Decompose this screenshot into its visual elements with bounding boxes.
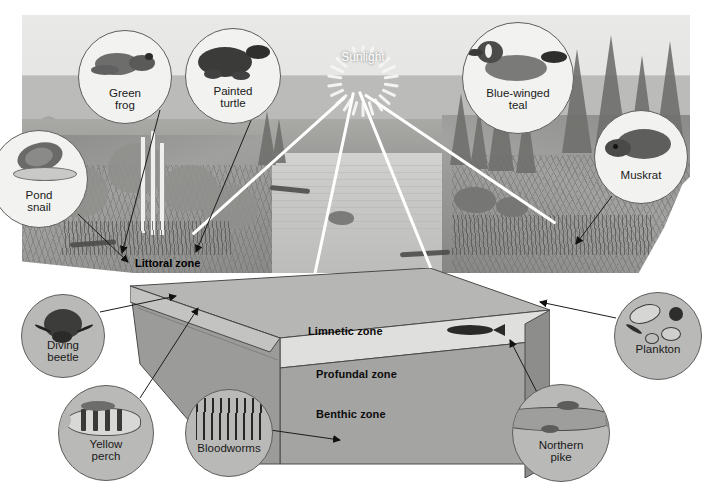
blue-winged-teal-illustration bbox=[471, 39, 567, 85]
snail-foot bbox=[13, 167, 77, 181]
teal-bill bbox=[467, 49, 483, 56]
callout-diving-beetle[interactable]: Diving beetle bbox=[21, 294, 105, 378]
teal-tail bbox=[541, 51, 567, 63]
callout-label-line1: Diving bbox=[22, 339, 104, 352]
callout-label-line1: Blue-winged bbox=[463, 87, 573, 100]
plankton-copepod bbox=[661, 327, 681, 341]
muskrat-eye bbox=[613, 144, 618, 149]
pike-body bbox=[512, 407, 610, 431]
callout-muskrat[interactable]: Muskrat bbox=[594, 110, 688, 204]
muskrat-illustration bbox=[603, 125, 681, 165]
pond-snail-illustration bbox=[7, 143, 85, 187]
bloodworms-illustration bbox=[196, 398, 262, 440]
northern-pike-illustration bbox=[512, 401, 610, 435]
figure-canvas: Sunlight Limnetic bbox=[0, 0, 710, 491]
perch-stripe bbox=[93, 409, 98, 431]
callout-green-frog[interactable]: Green frog bbox=[78, 30, 172, 124]
callout-label-line1: Yellow bbox=[59, 438, 153, 451]
connector-painted-turtle bbox=[196, 118, 252, 252]
callout-label-line1: Northern bbox=[513, 439, 609, 452]
perch-stripe bbox=[117, 409, 122, 431]
frog-leg bbox=[91, 65, 119, 75]
connector-muskrat bbox=[576, 196, 612, 244]
pike-fin bbox=[557, 401, 579, 410]
callout-label-line1: Pond bbox=[0, 189, 87, 202]
turtle-leg bbox=[204, 69, 222, 79]
connector-plankton bbox=[540, 302, 616, 318]
callout-northern-pike[interactable]: Northern pike bbox=[512, 384, 610, 482]
callout-label-line1: Bloodworms bbox=[186, 442, 272, 455]
turtle-head bbox=[246, 45, 270, 59]
connector-pond-snail bbox=[78, 214, 128, 262]
perch-stripe bbox=[81, 409, 86, 431]
connector-green-frog bbox=[122, 110, 160, 253]
callout-blue-winged-teal[interactable]: Blue-winged teal bbox=[462, 22, 574, 134]
callout-label-line2: frog bbox=[79, 99, 171, 112]
plankton-diatom bbox=[627, 300, 663, 327]
callout-label-line2: perch bbox=[59, 450, 153, 463]
plankton-radiolarian bbox=[669, 307, 683, 321]
callout-painted-turtle[interactable]: Painted turtle bbox=[185, 28, 281, 124]
callout-pond-snail[interactable]: Pond snail bbox=[0, 130, 88, 228]
callout-label-line2: teal bbox=[463, 99, 573, 112]
teal-cheek-crescent bbox=[485, 44, 492, 58]
callout-label-line1: Plankton bbox=[615, 343, 701, 356]
perch-stripe bbox=[105, 409, 110, 431]
perch-body bbox=[65, 408, 141, 436]
callout-plankton[interactable]: Plankton bbox=[614, 292, 702, 380]
connector-northern-pike bbox=[510, 340, 540, 398]
turtle-leg bbox=[232, 71, 250, 80]
callout-label-line1: Painted bbox=[186, 85, 280, 98]
pike-fin bbox=[541, 425, 559, 433]
callout-yellow-perch[interactable]: Yellow perch bbox=[58, 385, 154, 481]
callout-label-line1: Muskrat bbox=[595, 169, 687, 182]
connector-yellow-perch bbox=[140, 308, 198, 398]
callout-label-line2: beetle bbox=[22, 351, 104, 364]
plankton-filament bbox=[625, 323, 643, 335]
connector-diving-beetle bbox=[100, 296, 176, 312]
callout-label-line2: turtle bbox=[186, 97, 280, 110]
connector-bloodworms bbox=[270, 430, 340, 440]
green-frog-illustration bbox=[89, 47, 161, 83]
callout-label-line1: Green bbox=[79, 87, 171, 100]
callout-bloodworms[interactable]: Bloodworms bbox=[185, 389, 273, 477]
muskrat-head bbox=[605, 139, 631, 157]
perch-dorsal-fin bbox=[81, 401, 115, 411]
callout-label-line2: snail bbox=[0, 201, 87, 214]
painted-turtle-illustration bbox=[194, 43, 272, 83]
frog-eye bbox=[145, 53, 153, 60]
callout-label-line2: pike bbox=[513, 451, 609, 464]
yellow-perch-illustration bbox=[58, 402, 154, 440]
